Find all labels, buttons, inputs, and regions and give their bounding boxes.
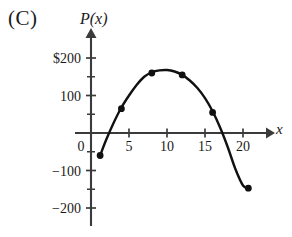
x-tick-label: 0: [78, 139, 85, 154]
y-axis-arrowhead: [86, 28, 97, 38]
x-tick-label: 10: [160, 139, 174, 154]
data-point-marker: [97, 152, 104, 159]
parabola-plot: P(x) x 05101520−200−100100$200: [0, 0, 292, 237]
data-markers-layer: [97, 70, 252, 192]
parabola-curve: [100, 70, 248, 188]
axes-layer: [75, 28, 275, 226]
data-point-marker: [118, 105, 125, 112]
data-point-marker: [179, 71, 186, 78]
data-point-marker: [245, 185, 252, 192]
y-tick-label: $200: [53, 51, 81, 66]
panel-label: (C): [8, 6, 38, 31]
y-tick-label: −200: [52, 201, 81, 216]
y-tick-label: −100: [52, 164, 81, 179]
y-tick-label: 100: [60, 89, 81, 104]
x-tick-label: 15: [198, 139, 212, 154]
x-tick-label: 20: [236, 139, 250, 154]
data-point-marker: [148, 70, 155, 77]
x-tick-label: 5: [126, 139, 133, 154]
figure-panel: (C) P(x) x 05101520−200−100100$200: [0, 0, 292, 237]
y-axis-label: P(x): [79, 10, 108, 28]
curve-layer: [100, 70, 248, 188]
x-axis-label: x: [275, 121, 283, 137]
data-point-marker: [209, 109, 216, 116]
x-axis-arrowhead: [266, 128, 275, 139]
